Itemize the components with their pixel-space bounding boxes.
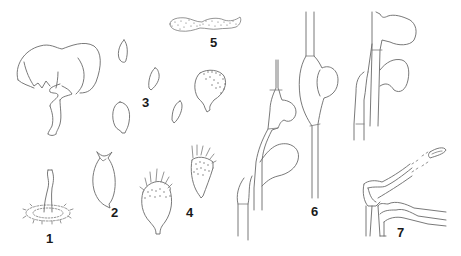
fig-2-horned-body-drawing <box>93 152 115 208</box>
fig-4-spiny-bodies-drawing <box>140 145 216 234</box>
fig-3-spores-drawing <box>113 40 182 133</box>
fig-4-label: 4 <box>186 206 193 219</box>
cap-fruiting-body-drawing <box>17 43 100 135</box>
fig-6-label: 6 <box>311 205 318 218</box>
fig-4-dots-a <box>144 188 170 198</box>
fig-7-tissue-section-drawing <box>363 148 446 236</box>
fig-6-right-hyphae-drawing <box>354 12 416 140</box>
fig-5-echinulate-body-drawing <box>170 17 241 31</box>
fig-1-stalk-disc-drawing <box>23 170 73 224</box>
fig-4-dots-b <box>193 161 209 175</box>
fig-1-label: 1 <box>46 232 53 245</box>
fig-3-label: 3 <box>142 96 149 109</box>
fig-3-globose-spore-drawing <box>195 70 226 112</box>
fig-7-label: 7 <box>397 226 404 239</box>
plate-drawings <box>0 0 461 256</box>
fig-5-label: 5 <box>210 36 217 49</box>
fig-2-label: 2 <box>111 206 118 219</box>
fig-6-hyphae-drawing <box>237 12 338 240</box>
figure-plate: 1 2 3 4 5 6 7 <box>0 0 461 256</box>
